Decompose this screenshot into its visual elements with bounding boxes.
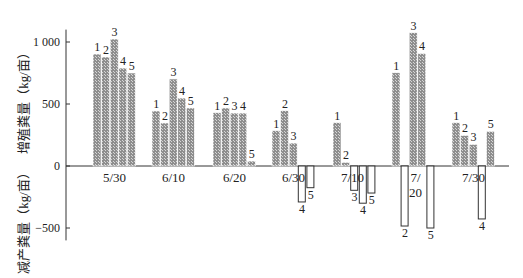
bar <box>119 68 127 166</box>
bar <box>93 54 101 166</box>
bar <box>161 123 169 166</box>
bar <box>102 57 110 166</box>
bar-label: 3 <box>171 65 177 79</box>
bar <box>342 162 350 166</box>
bar-label: 3 <box>352 190 358 204</box>
bar-label: 2 <box>402 226 408 240</box>
x-tick-label: 7/30 <box>462 170 485 185</box>
bar-label: 5 <box>249 147 255 161</box>
bar-label: 4 <box>479 219 485 233</box>
bar-label: 2 <box>103 43 109 57</box>
bar <box>452 123 460 166</box>
bar <box>469 144 477 166</box>
bar-label: 2 <box>462 121 468 135</box>
bar <box>178 98 186 166</box>
bar-label: 4 <box>120 54 126 68</box>
bar-label: 5 <box>129 59 135 73</box>
bar-label: 4 <box>240 99 246 113</box>
bar-label: 5 <box>188 94 194 108</box>
bar-label: 1 <box>453 109 459 123</box>
bar <box>281 111 289 166</box>
bar-label: 1 <box>334 109 340 123</box>
bar-label: 2 <box>282 97 288 111</box>
y-axis-label-negative: 减产粪量（kg/亩） <box>2 160 42 278</box>
bar <box>213 113 221 166</box>
bar <box>110 39 118 166</box>
bar-label: 3 <box>291 129 297 143</box>
bar-label: 5 <box>308 188 314 202</box>
bar-label: 1 <box>153 97 159 111</box>
bar <box>392 73 400 166</box>
x-tick-label: 20 <box>409 185 422 200</box>
x-tick-label: 5/30 <box>103 170 126 185</box>
y-tick-label: 0 <box>54 159 60 173</box>
bar-label: 4 <box>419 39 425 53</box>
y-tick-label: 500 <box>42 97 60 111</box>
bar-label: 2 <box>162 109 168 123</box>
bar-label: 5 <box>428 228 434 242</box>
bar-label: 1 <box>393 59 399 73</box>
bar-negative <box>401 166 408 226</box>
bar-label: 4 <box>360 203 366 217</box>
x-tick-label: 6/10 <box>162 170 185 185</box>
bar-label: 2 <box>343 148 349 162</box>
bar <box>461 135 469 166</box>
x-tick-label: 7/10 <box>341 170 364 185</box>
x-tick-label: 6/30 <box>282 170 305 185</box>
bar-negative <box>368 166 375 193</box>
bar <box>186 108 194 166</box>
bar-label: 3 <box>232 99 238 113</box>
bar-negative <box>307 166 314 188</box>
bar-label: 5 <box>488 117 494 131</box>
bar-label: 2 <box>223 94 229 108</box>
bar <box>222 108 230 166</box>
bar <box>239 113 247 166</box>
bar <box>247 161 255 166</box>
bar-label: 4 <box>299 202 305 216</box>
bar-label: 4 <box>179 84 185 98</box>
bar <box>272 131 280 166</box>
bar-label: 1 <box>94 40 100 54</box>
x-tick-label: 7/ <box>410 170 421 185</box>
bar-label: 3 <box>471 130 477 144</box>
bar <box>169 79 177 166</box>
bar-label: 5 <box>369 193 375 207</box>
bar-label: 1 <box>214 99 220 113</box>
bar <box>418 53 426 166</box>
bar <box>486 131 494 166</box>
bar-negative <box>427 166 434 228</box>
bar <box>127 73 135 166</box>
bar <box>152 111 160 166</box>
bar-label: 1 <box>273 117 279 131</box>
bar-label: 3 <box>112 25 118 39</box>
bar <box>333 123 341 166</box>
bar-label: 3 <box>411 19 417 33</box>
y-axis-label-positive: 增殖粪量（kg/亩） <box>2 40 42 160</box>
x-tick-label: 6/20 <box>223 170 246 185</box>
bar <box>409 33 417 166</box>
bar <box>230 113 238 166</box>
bar <box>289 143 297 166</box>
